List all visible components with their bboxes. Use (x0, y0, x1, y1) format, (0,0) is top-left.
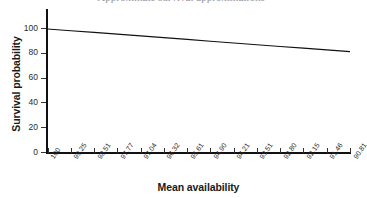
survival-line (48, 29, 351, 52)
